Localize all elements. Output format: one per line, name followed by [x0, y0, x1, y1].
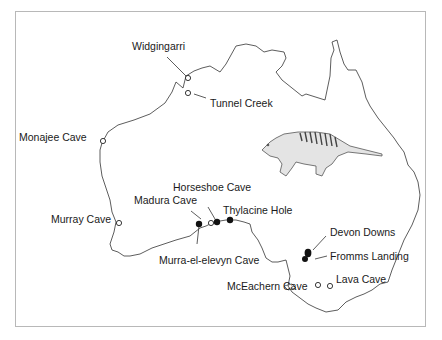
- site-label-devon-downs: Devon Downs: [330, 227, 395, 238]
- site-label-tunnel-creek: Tunnel Creek: [210, 98, 273, 109]
- site-label-monajee-cave: Monajee Cave: [19, 132, 87, 143]
- site-label-murray-cave: Murray Cave: [51, 214, 111, 225]
- marker-lava-cave[interactable]: [327, 283, 332, 288]
- marker-murra-el-elevyn-cave[interactable]: [196, 221, 202, 227]
- site-label-fromms-landing: Fromms Landing: [330, 251, 409, 262]
- site-label-widgingarri: Widgingarri: [132, 41, 185, 52]
- marker-mceachern-cave[interactable]: [315, 282, 320, 287]
- marker-tunnel-creek[interactable]: [185, 90, 190, 95]
- marker-thylacine-hole[interactable]: [227, 217, 233, 223]
- marker-devon-downs[interactable]: [305, 249, 312, 257]
- marker-murray-cave[interactable]: [116, 220, 121, 225]
- australia-coastline: [100, 40, 420, 312]
- site-label-madura-cave: Madura Cave: [134, 195, 197, 206]
- site-label-murra-el-elevyn-cave: Murra-el-elevyn Cave: [159, 255, 259, 266]
- site-label-mceachern-cave: McEachern Cave: [227, 281, 308, 292]
- marker-madura-cave[interactable]: [208, 220, 213, 225]
- marker-widgingarri[interactable]: [185, 75, 190, 80]
- marker-fromms-landing[interactable]: [302, 256, 308, 262]
- site-label-horseshoe-cave: Horseshoe Cave: [173, 182, 251, 193]
- site-label-lava-cave: Lava Cave: [336, 274, 386, 285]
- marker-monajee-cave[interactable]: [100, 138, 105, 143]
- thylacine-illustration: [262, 132, 382, 176]
- australia-map: [0, 0, 442, 340]
- site-label-thylacine-hole: Thylacine Hole: [223, 205, 292, 216]
- marker-horseshoe-cave[interactable]: [214, 219, 220, 225]
